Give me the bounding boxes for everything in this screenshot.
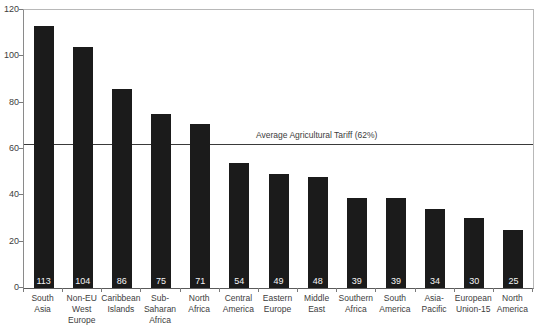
bar-value-label: 39 (347, 276, 367, 286)
x-axis-label: Sub- Saharan Africa (140, 293, 179, 326)
y-axis-tick-label: 120 (0, 4, 19, 14)
x-axis-tick (140, 288, 141, 292)
plot-area: Average Agricultural Tariff (62%) 113104… (23, 9, 534, 289)
x-axis-label: North America (493, 293, 532, 315)
x-axis-label: Non-EU West Europe (62, 293, 101, 326)
x-axis-tick (493, 288, 494, 292)
x-axis-tick (62, 288, 63, 292)
x-axis-tick (258, 288, 259, 292)
y-axis-tick-label: 40 (0, 189, 19, 199)
bar-value-label: 39 (386, 276, 406, 286)
bar-value-label: 71 (190, 276, 210, 286)
bar: 25 (503, 230, 523, 288)
bar: 113 (34, 26, 54, 288)
average-tariff-line-label: Average Agricultural Tariff (62%) (256, 130, 377, 140)
bar: 39 (386, 198, 406, 288)
x-axis-label: Southern Africa (336, 293, 375, 315)
x-axis-tick (415, 288, 416, 292)
x-axis-tick (101, 288, 102, 292)
x-axis-label: Caribbean Islands (101, 293, 140, 315)
x-axis-label: Asia- Pacific (415, 293, 454, 315)
x-axis-label: Central America (219, 293, 258, 315)
y-axis-tick-label: 100 (0, 50, 19, 60)
x-axis-ticks (23, 288, 533, 292)
bar: 49 (269, 174, 289, 288)
bar: 39 (347, 198, 367, 288)
x-axis-tick (23, 288, 24, 292)
x-axis-tick (297, 288, 298, 292)
x-axis-label: North Africa (180, 293, 219, 315)
x-axis-label: Eastern Europe (258, 293, 297, 315)
x-axis-tick (454, 288, 455, 292)
y-axis-tick-label: 0 (0, 282, 19, 292)
x-axis-label: Middle East (297, 293, 336, 315)
average-tariff-line (24, 144, 533, 145)
x-axis-label: European Union-15 (454, 293, 493, 315)
bar-value-label: 34 (425, 276, 445, 286)
x-axis-tick (532, 288, 533, 292)
bar: 34 (425, 209, 445, 288)
bar: 86 (112, 89, 132, 288)
bar-value-label: 86 (112, 276, 132, 286)
bar-value-label: 104 (73, 276, 93, 286)
x-axis-tick (180, 288, 181, 292)
x-axis-tick (336, 288, 337, 292)
bar-value-label: 75 (151, 276, 171, 286)
bar-value-label: 54 (229, 276, 249, 286)
bar: 30 (464, 218, 484, 288)
bar-value-label: 49 (269, 276, 289, 286)
x-axis-tick (375, 288, 376, 292)
bar-value-label: 48 (308, 276, 328, 286)
bar: 48 (308, 177, 328, 288)
bar-value-label: 25 (503, 276, 523, 286)
bar: 75 (151, 114, 171, 288)
bar-value-label: 30 (464, 276, 484, 286)
x-axis-label: South Asia (23, 293, 62, 315)
y-axis-tick-label: 20 (0, 236, 19, 246)
x-axis-labels: South AsiaNon-EU West EuropeCaribbean Is… (23, 293, 532, 329)
x-axis-label: South America (375, 293, 414, 315)
bar: 104 (73, 47, 93, 288)
bar: 54 (229, 163, 249, 288)
bar-chart: 020406080100120 Average Agricultural Tar… (0, 0, 540, 329)
x-axis-tick (219, 288, 220, 292)
y-axis-tick-label: 60 (0, 143, 19, 153)
bar: 71 (190, 124, 210, 288)
bar-value-label: 113 (34, 276, 54, 286)
y-axis-tick-label: 80 (0, 97, 19, 107)
